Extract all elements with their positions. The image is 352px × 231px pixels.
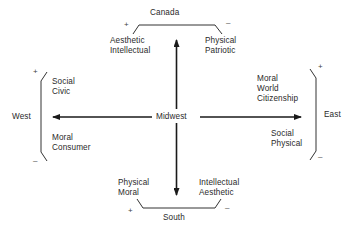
value-label: Physical <box>271 139 302 149</box>
west-minus-values: Moral Consumer <box>52 133 91 153</box>
east-minus-values: Social Physical <box>271 129 302 149</box>
value-label: Moral <box>118 188 149 198</box>
value-label: Physical <box>118 178 149 188</box>
canada-minus-values: Physical Patriotic <box>205 36 236 56</box>
south-plus-values: Physical Moral <box>118 178 149 198</box>
east-plus-sign: + <box>318 63 323 71</box>
south-bracket <box>137 199 221 208</box>
canada-bracket <box>133 25 222 34</box>
region-label-east: East <box>324 110 341 120</box>
value-label: Moral <box>52 133 91 143</box>
value-label: Patriotic <box>205 46 236 56</box>
value-label: Consumer <box>52 143 91 153</box>
west-minus-sign: – <box>33 157 37 165</box>
canada-plus-values: Aesthetic Intellectual <box>110 36 150 56</box>
value-label: Aesthetic <box>110 36 150 46</box>
south-minus-sign: – <box>225 204 229 212</box>
value-label: Aesthetic <box>199 188 239 198</box>
value-label: World <box>257 84 298 94</box>
region-label-west: West <box>12 112 31 122</box>
east-bracket <box>310 69 316 160</box>
east-plus-values: Moral World Citizenship <box>257 74 298 104</box>
value-label: Moral <box>257 74 298 84</box>
value-label: Civic <box>52 87 75 97</box>
value-label: Social <box>52 77 75 87</box>
south-minus-values: Intellectual Aesthetic <box>199 178 239 198</box>
value-label: Intellectual <box>199 178 239 188</box>
value-label: Citizenship <box>257 94 298 104</box>
region-label-south: South <box>163 213 185 223</box>
west-bracket <box>41 72 47 161</box>
canada-plus-sign: + <box>124 21 129 29</box>
value-label: Social <box>271 129 302 139</box>
east-minus-sign: – <box>318 153 322 161</box>
canada-minus-sign: – <box>226 19 230 27</box>
center-label-midwest: Midwest <box>152 112 191 122</box>
west-plus-values: Social Civic <box>52 77 75 97</box>
value-label: Physical <box>205 36 236 46</box>
west-plus-sign: + <box>33 68 38 76</box>
value-label: Intellectual <box>110 46 150 56</box>
region-label-canada: Canada <box>150 8 179 18</box>
south-plus-sign: + <box>128 207 133 215</box>
